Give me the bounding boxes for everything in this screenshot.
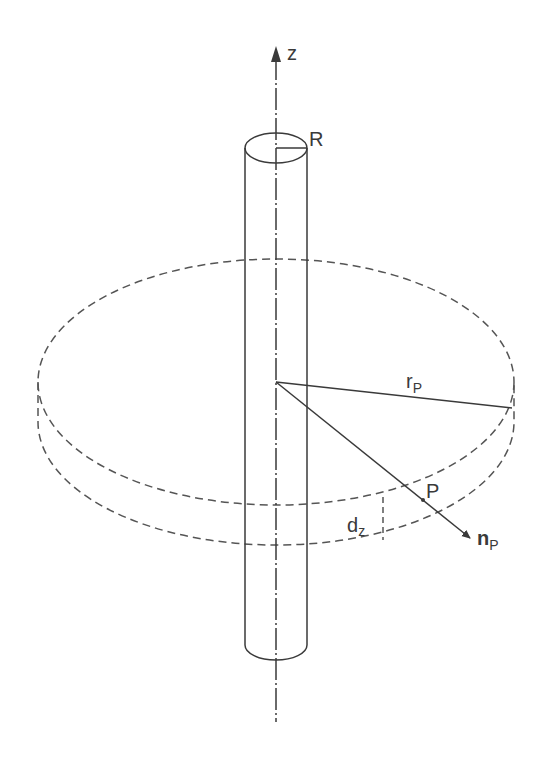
normal-vector-arrow	[276, 382, 470, 538]
thickness-label: dz	[347, 514, 365, 539]
disc-radius-label: rP	[406, 370, 422, 396]
normal-label: nP	[477, 527, 499, 553]
disc-radius-line	[276, 382, 512, 408]
cylinder-disc-diagram: z R rP P nP dz	[0, 0, 540, 764]
point-label: P	[426, 480, 439, 502]
z-axis-arrow-icon	[271, 46, 281, 62]
z-axis-label: z	[287, 42, 297, 64]
point-P-marker	[421, 498, 425, 502]
cylinder-radius-label: R	[309, 128, 323, 150]
